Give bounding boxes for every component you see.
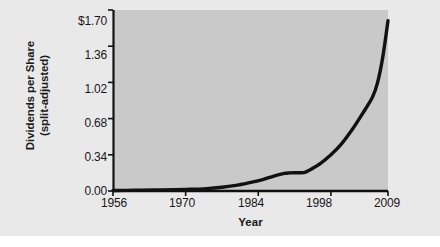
plot-area [113, 10, 388, 191]
chart-figure: Dividends per Share (split-adjusted) $1.… [0, 0, 440, 247]
plot-area-background [113, 10, 388, 191]
